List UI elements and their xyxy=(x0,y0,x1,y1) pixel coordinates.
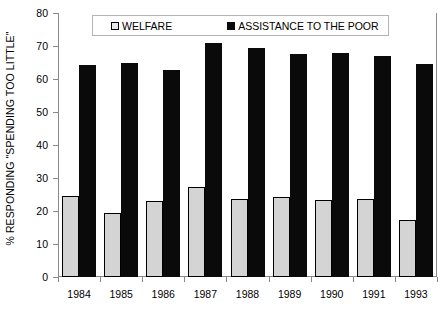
bar-assistance-to-the-poor-1985 xyxy=(121,63,138,277)
y-axis-tick-label: 30 xyxy=(10,173,48,184)
bar-assistance-to-the-poor-1988 xyxy=(248,48,265,277)
x-axis-tick xyxy=(311,277,312,282)
bar-welfare-1986 xyxy=(146,201,163,277)
y-axis-tick-label: 70 xyxy=(10,41,48,52)
bar-assistance-to-the-poor-1984 xyxy=(79,65,96,277)
x-axis-tick xyxy=(100,277,101,282)
x-axis-tick xyxy=(58,277,59,282)
legend-swatch-welfare-icon xyxy=(111,22,119,30)
x-axis-label-1984: 1984 xyxy=(67,288,90,300)
y-axis-tick-label: 50 xyxy=(10,107,48,118)
x-axis-label-1990: 1990 xyxy=(320,288,343,300)
x-axis-tick xyxy=(269,277,270,282)
x-axis-tick xyxy=(353,277,354,282)
bar-welfare-1988 xyxy=(231,199,248,277)
bar-assistance-to-the-poor-1991 xyxy=(374,56,391,277)
legend-label-welfare: WELFARE xyxy=(122,20,172,32)
plot-right-border xyxy=(436,13,437,277)
x-axis-label-1989: 1989 xyxy=(278,288,301,300)
bar-assistance-to-the-poor-1989 xyxy=(290,54,307,277)
bar-assistance-to-the-poor-1986 xyxy=(163,70,180,277)
bar-welfare-1990 xyxy=(315,200,332,277)
legend: WELFARE ASSISTANCE TO THE POOR xyxy=(92,15,389,36)
x-axis-label-1988: 1988 xyxy=(236,288,259,300)
bar-chart: % RESPONDING "SPENDING TOO LITTLE" 01020… xyxy=(0,0,445,317)
bar-welfare-1987 xyxy=(188,187,205,277)
bar-welfare-1991 xyxy=(357,199,374,277)
legend-item-welfare: WELFARE xyxy=(111,20,172,32)
bar-welfare-1984 xyxy=(62,196,79,277)
bar-assistance-to-the-poor-1990 xyxy=(332,53,349,277)
x-axis-label-1987: 1987 xyxy=(194,288,217,300)
legend-swatch-assistance-icon xyxy=(227,22,235,30)
x-axis-label-1993: 1993 xyxy=(404,288,427,300)
y-axis-tick-label: 20 xyxy=(10,206,48,217)
x-axis-label-1991: 1991 xyxy=(362,288,385,300)
legend-item-assistance: ASSISTANCE TO THE POOR xyxy=(227,20,378,32)
y-axis-tick-label: 80 xyxy=(10,8,48,19)
bar-assistance-to-the-poor-1987 xyxy=(205,43,222,277)
y-axis-tick-label: 40 xyxy=(10,140,48,151)
bar-welfare-1993 xyxy=(399,220,416,277)
y-axis-tick-label: 0 xyxy=(10,272,48,283)
x-axis-tick xyxy=(226,277,227,282)
bar-welfare-1985 xyxy=(104,213,121,277)
x-axis-tick xyxy=(437,277,438,282)
legend-label-assistance: ASSISTANCE TO THE POOR xyxy=(238,20,378,32)
x-axis-tick xyxy=(142,277,143,282)
x-axis-tick xyxy=(184,277,185,282)
x-axis-label-1986: 1986 xyxy=(152,288,175,300)
y-axis-tick-label: 60 xyxy=(10,74,48,85)
bar-assistance-to-the-poor-1993 xyxy=(416,64,433,277)
x-axis-label-1985: 1985 xyxy=(109,288,132,300)
bar-welfare-1989 xyxy=(273,197,290,277)
y-axis-tick-label: 10 xyxy=(10,239,48,250)
x-axis-tick xyxy=(395,277,396,282)
